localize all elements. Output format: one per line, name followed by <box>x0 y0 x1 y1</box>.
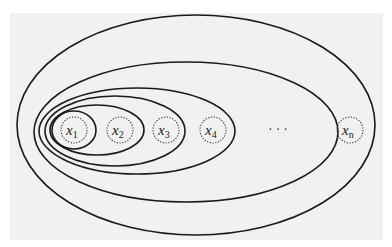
nested-sets-diagram: x1 x2 x3 x4 xn ··· <box>0 0 392 247</box>
ellipsis-dots: ··· <box>268 122 291 137</box>
